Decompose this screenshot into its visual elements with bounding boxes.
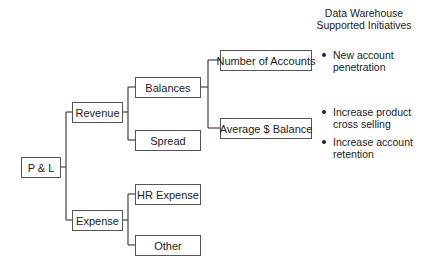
initiative-line1: Increase account	[333, 136, 413, 148]
initiative-line2: cross selling	[333, 118, 411, 130]
initiative-item: Increase product cross selling	[322, 106, 411, 130]
initiative-item: Increase account retention	[322, 136, 413, 160]
node-average-balance: Average $ Balance	[220, 118, 312, 139]
initiatives-header: Data Warehouse Supported Initiatives	[316, 7, 412, 31]
bullet-icon	[322, 53, 326, 57]
node-expense: Expense	[72, 210, 123, 231]
initiative-line2: penetration	[333, 61, 394, 73]
node-expense-label: Expense	[76, 215, 119, 227]
node-revenue-label: Revenue	[75, 107, 119, 119]
bullet-icon	[322, 110, 326, 114]
node-pl: P & L	[21, 157, 61, 178]
initiative-item: New account penetration	[322, 49, 394, 73]
node-revenue: Revenue	[72, 102, 123, 123]
initiatives-header-line1: Data Warehouse	[316, 7, 412, 19]
node-spread: Spread	[135, 130, 201, 151]
bullet-icon	[322, 140, 326, 144]
initiative-line1: New account	[333, 49, 394, 61]
node-number-of-accounts-label: Number of Accounts	[216, 55, 315, 67]
initiatives-header-line2: Supported Initiatives	[316, 19, 412, 31]
node-balances-label: Balances	[145, 82, 190, 94]
node-average-balance-label: Average $ Balance	[220, 123, 313, 135]
node-hr-expense: HR Expense	[135, 184, 201, 205]
initiative-line2: retention	[333, 148, 413, 160]
initiative-line1: Increase product	[333, 106, 411, 118]
node-other: Other	[135, 235, 201, 256]
node-number-of-accounts: Number of Accounts	[220, 50, 312, 71]
node-balances: Balances	[135, 77, 201, 98]
node-hr-expense-label: HR Expense	[137, 189, 199, 201]
node-other-label: Other	[154, 240, 182, 252]
node-pl-label: P & L	[28, 162, 55, 174]
node-spread-label: Spread	[150, 135, 185, 147]
